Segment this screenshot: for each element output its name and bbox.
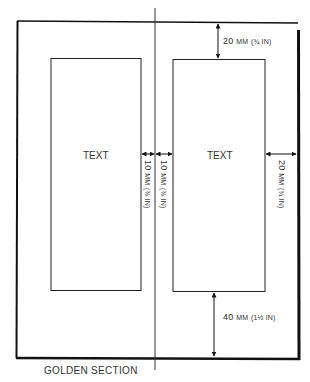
- golden-section-diagram: [0, 0, 310, 382]
- top-margin-label: 20 MM (¾ IN): [223, 36, 272, 46]
- text-label-right: TEXT: [207, 150, 233, 161]
- text-label-left: TEXT: [83, 150, 109, 161]
- inner-margin-left-label: 10 MM (⅜ IN): [143, 160, 153, 209]
- bottom-margin-label: 40 MM (1½ IN): [223, 312, 276, 322]
- inner-margin-right-label: 10 MM (⅜ IN): [159, 160, 169, 209]
- diagram-caption: GOLDEN SECTION: [44, 365, 138, 376]
- outer-margin-label: 20 MM (¾ IN): [277, 160, 287, 209]
- text-block-right: [173, 60, 265, 292]
- text-block-left: [51, 59, 141, 291]
- spread-frame: [16, 21, 300, 360]
